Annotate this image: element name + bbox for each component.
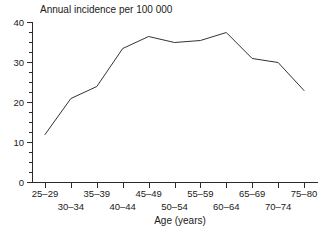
x-tick-label-55-59: 55–59 <box>187 188 213 199</box>
x-tick-label-25-29: 25–29 <box>32 188 58 199</box>
x-axis-title: Age (years) <box>154 215 206 226</box>
x-tick-label-35-39: 35–39 <box>84 188 110 199</box>
x-tick-label-60-64: 60–64 <box>213 201 239 212</box>
y-tick-label-30: 30 <box>13 57 24 68</box>
x-tick-label-45-49: 45–49 <box>135 188 161 199</box>
y-tick-label-40: 40 <box>13 17 24 28</box>
x-axis-ticks <box>46 183 305 188</box>
x-tick-label-65-69: 65–69 <box>239 188 265 199</box>
y-tick-label-20: 20 <box>13 97 24 108</box>
y-axis-major-ticks <box>27 23 33 183</box>
x-tick-label-70-74: 70–74 <box>265 201 291 212</box>
line-chart: Annual incidence per 100 000 <box>0 0 324 228</box>
y-tick-label-0: 0 <box>19 177 24 188</box>
x-tick-label-30-34: 30–34 <box>58 201 84 212</box>
x-tick-label-50-54: 50–54 <box>161 201 187 212</box>
chart-container: Annual incidence per 100 000 <box>0 0 324 228</box>
y-tick-label-10: 10 <box>13 137 24 148</box>
x-tick-label-40-44: 40–44 <box>109 201 135 212</box>
chart-title: Annual incidence per 100 000 <box>40 4 173 15</box>
x-axis-labels-bottom-row: 30–3440–4450–5460–6470–74 <box>58 201 292 212</box>
x-axis-labels-top-row: 25–2935–3945–4955–5965–6975–80 <box>32 188 317 199</box>
incidence-line-series <box>45 33 304 135</box>
x-tick-label-75-80: 75–80 <box>291 188 317 199</box>
